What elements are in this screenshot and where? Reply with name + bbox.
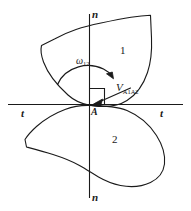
velocity-symbol: V bbox=[116, 81, 123, 93]
tangent-axis-label-right: t bbox=[160, 108, 163, 119]
omega-subscript: 12 bbox=[83, 60, 90, 67]
kinematics-figure: n n t t A 1 2 ω12 VA1A2 bbox=[0, 0, 191, 211]
body-2-label: 2 bbox=[112, 134, 118, 145]
angular-velocity-label: ω12 bbox=[76, 56, 90, 66]
angular-velocity-arc bbox=[58, 65, 113, 84]
body-1-label: 1 bbox=[120, 45, 126, 56]
body-2-outline bbox=[25, 105, 165, 186]
normal-axis-label-top: n bbox=[92, 9, 98, 20]
velocity-subscript: A1A2 bbox=[123, 88, 139, 95]
contact-point-label: A bbox=[91, 107, 98, 117]
normal-axis-label-bottom: n bbox=[92, 192, 98, 203]
tangent-axis-label-left: t bbox=[21, 108, 24, 119]
omega-symbol: ω bbox=[76, 55, 83, 66]
relative-velocity-label: VA1A2 bbox=[116, 82, 139, 93]
angular-velocity-arrowhead bbox=[107, 72, 114, 79]
